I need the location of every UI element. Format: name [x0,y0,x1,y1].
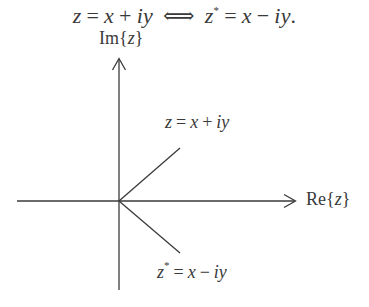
eq-x-2: x [242,3,252,28]
zc-star: * [164,259,170,271]
im-var: z [128,28,135,48]
vector-z-label: z=x+iy [165,112,229,133]
z-plus: + [202,112,212,132]
real-axis-label: Re{z} [306,189,350,210]
re-close-brace: } [342,189,351,209]
zc-x: x [188,262,196,282]
vector-z [119,148,180,201]
z-x: x [190,112,198,132]
imaginary-axis-label: Im{z} [99,28,143,49]
re-open-brace: { [326,189,335,209]
im-close-brace: } [135,28,144,48]
re-prefix: Re [306,189,326,209]
eq-iy-1: iy [137,3,153,28]
vector-z-conjugate [119,201,180,253]
eq-equals-2: = [224,3,237,28]
eq-x-1: x [104,3,114,28]
eq-lhs-var: z [73,3,82,28]
z-var: z [165,112,172,132]
re-var: z [335,189,342,209]
im-prefix: Im [99,28,119,48]
eq-star: * [213,4,219,16]
zc-equals: = [174,262,184,282]
iff-arrow-icon: ⟺ [163,3,195,28]
eq-period: . [291,3,297,28]
eq-minus: − [257,3,270,28]
zc-iy: iy [214,262,227,282]
im-open-brace: { [119,28,128,48]
eq-iy-2: iy [274,3,290,28]
zc-minus: − [200,262,210,282]
zc-var: z [157,262,164,282]
z-iy: iy [216,112,229,132]
z-equals: = [176,112,186,132]
conjugate-definition-equation: z=x+iy⟺z*=x−iy. [0,3,369,29]
eq-plus: + [119,3,132,28]
eq-equals-1: = [86,3,99,28]
vector-z-conjugate-label: z*=x−iy [157,259,227,283]
